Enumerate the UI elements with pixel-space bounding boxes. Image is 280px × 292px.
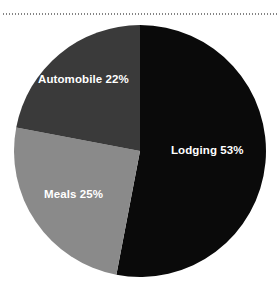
pie-chart: Automobile 22% Lodging 53% Meals 25% — [0, 0, 280, 292]
pie-label-meals: Meals 25% — [44, 189, 103, 201]
pie-label-lodging: Lodging 53% — [171, 145, 244, 157]
pie-label-automobile: Automobile 22% — [38, 74, 129, 86]
